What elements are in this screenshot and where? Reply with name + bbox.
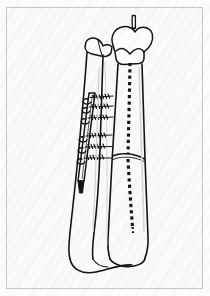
tibia-cortex-medial bbox=[108, 64, 118, 259]
pin-shaft bbox=[132, 16, 135, 29]
intramedullary-nail bbox=[128, 63, 133, 233]
tibia bbox=[108, 27, 153, 267]
figure-root bbox=[0, 0, 210, 296]
nail-dashed-lower bbox=[128, 159, 132, 226]
proximal-guide-pin bbox=[132, 16, 135, 29]
nail-dashed-upper bbox=[128, 63, 130, 154]
plate-distal-tip bbox=[78, 181, 84, 193]
fibula bbox=[69, 38, 132, 273]
tibia-outline bbox=[112, 27, 153, 65]
screw-6 bbox=[84, 155, 112, 160]
interosseous-line bbox=[105, 62, 107, 245]
anatomical-line-drawing bbox=[6, 7, 203, 289]
distal-tip bbox=[93, 259, 108, 267]
